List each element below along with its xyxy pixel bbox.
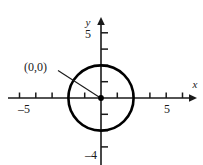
origin-point-label: (0,0) (24, 60, 47, 74)
x-axis-label: x (192, 78, 198, 90)
y-tick-label-minus4: –4 (84, 148, 97, 162)
y-axis-arrow-icon (97, 17, 105, 25)
origin-point-marker (98, 95, 104, 101)
x-axis-arrow-icon (189, 94, 197, 102)
x-tick-label-5: 5 (164, 102, 170, 116)
x-tick-label-minus5: –5 (17, 102, 30, 116)
coordinate-plane-svg: y x 5 –4 –5 5 (0,0) (0, 0, 203, 165)
graph-figure: y x 5 –4 –5 5 (0,0) (0, 0, 203, 165)
y-tick-label-5: 5 (85, 27, 91, 41)
